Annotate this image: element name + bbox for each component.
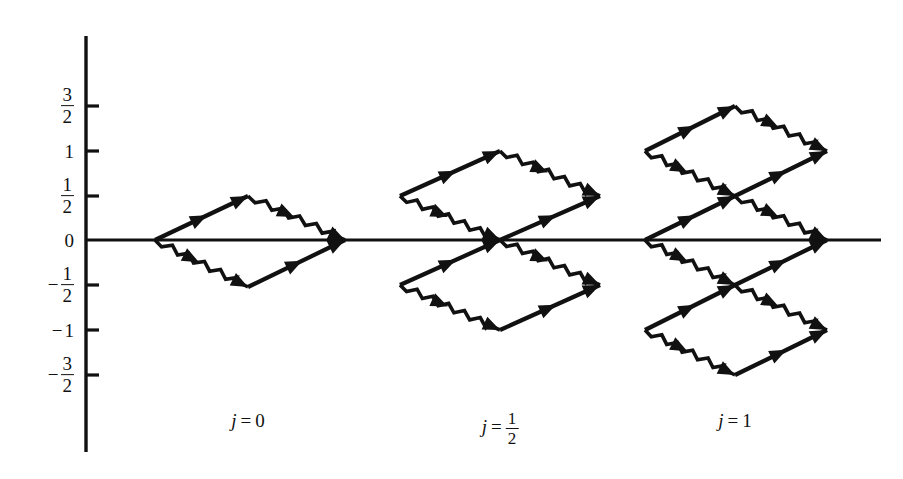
fraction: 12 xyxy=(61,264,75,306)
y-tick-label-2: 12 xyxy=(61,175,75,217)
raise-arrow-jhalf-cell0-a-head xyxy=(482,151,500,164)
denominator: 2 xyxy=(61,376,75,396)
group-label-j1: j=1 xyxy=(718,410,752,432)
y-tick-label-1: 1 xyxy=(65,140,75,161)
fraction: 12 xyxy=(61,175,75,217)
numerator: 3 xyxy=(61,85,75,106)
equals-sign: = xyxy=(241,410,252,431)
group-label-j0: j=0 xyxy=(231,410,265,432)
diamond-j1-cell2 xyxy=(645,285,827,375)
minus-sign: − xyxy=(52,322,63,341)
denominator: 2 xyxy=(61,197,75,217)
lower-arrow-j0-cell0-b-head xyxy=(327,227,345,240)
numerator: 3 xyxy=(61,354,75,375)
group-label-jhalf: j=12 xyxy=(482,410,519,448)
raise-arrow-jhalf-cell1-b-head xyxy=(582,285,600,298)
raise-arrow-jhalf-cell0-b-head xyxy=(582,196,600,209)
whole-number: 0 xyxy=(65,232,75,251)
numerator: 1 xyxy=(61,264,75,285)
diamond-j1-cell0 xyxy=(645,106,827,196)
raise-arrow-jhalf-cell1-a-head xyxy=(482,240,500,253)
y-tick-label-6: −32 xyxy=(48,354,74,396)
y-tick-label-0: 32 xyxy=(61,85,75,127)
fraction: 12 xyxy=(506,410,519,448)
y-tick-label-4: −12 xyxy=(48,264,74,306)
diamond-jhalf-cell1 xyxy=(400,240,600,330)
whole-number: 0 xyxy=(255,410,265,431)
raise-arrow-jhalf-cell1-a-midhead xyxy=(438,260,456,273)
j-symbol: j xyxy=(718,410,723,431)
denominator: 2 xyxy=(61,107,75,127)
lower-arrow-jhalf-cell0-b-head xyxy=(582,183,600,196)
whole-number: 1 xyxy=(742,410,752,431)
figure-canvas: 321120−12−1−32 j=0j=12j=1 xyxy=(0,0,903,479)
angular-momentum-diagram xyxy=(0,0,903,479)
equals-sign: = xyxy=(728,410,739,431)
lower-arrow-j0-cell0-b-midhead xyxy=(276,204,294,217)
j-symbol: j xyxy=(482,416,487,437)
numerator: 1 xyxy=(506,410,519,429)
whole-number: 1 xyxy=(65,322,75,341)
y-tick-label-3: 0 xyxy=(65,229,75,250)
equals-sign: = xyxy=(491,416,502,437)
fraction: 32 xyxy=(61,85,75,127)
y-tick-label-5: −1 xyxy=(52,319,74,340)
minus-sign: − xyxy=(48,366,59,385)
lower-arrow-jhalf-cell1-a-head xyxy=(482,317,500,330)
numerator: 1 xyxy=(61,175,75,196)
denominator: 2 xyxy=(61,286,75,306)
j-symbol: j xyxy=(231,410,236,431)
denominator: 2 xyxy=(506,429,519,447)
whole-number: 1 xyxy=(65,143,75,162)
raise-arrow-jhalf-cell0-b-midhead xyxy=(538,215,556,228)
raise-arrow-jhalf-cell0-a-midhead xyxy=(438,171,456,184)
minus-sign: − xyxy=(48,276,59,295)
fraction: 32 xyxy=(61,354,75,396)
raise-arrow-jhalf-cell1-b-midhead xyxy=(538,305,556,318)
lower-arrow-jhalf-cell1-b-head xyxy=(582,272,600,285)
diamond-jhalf-cell0 xyxy=(400,151,600,240)
lower-arrow-jhalf-cell0-a-head xyxy=(482,227,500,240)
